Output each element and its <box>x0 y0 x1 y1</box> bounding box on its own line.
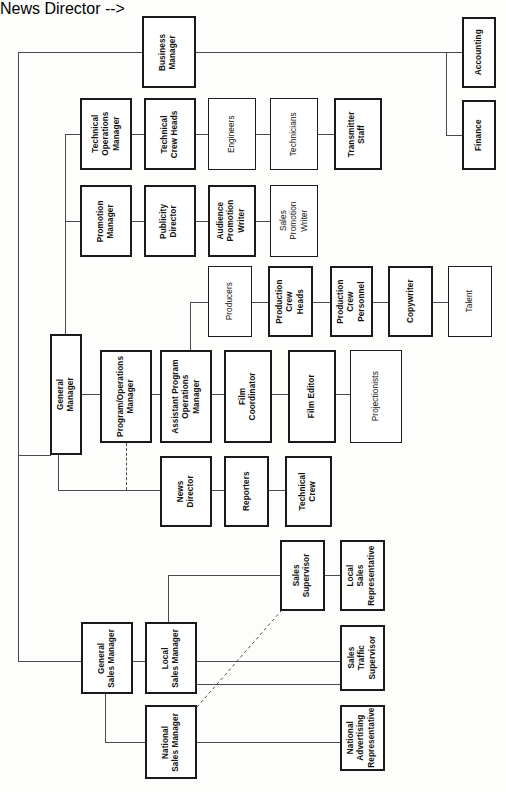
connector-technicians-to-transmitter <box>318 134 334 135</box>
connector-gsm-national-riser <box>105 694 106 742</box>
node-national-sales-manager[interactable]: National Sales Manager <box>145 705 197 779</box>
node-label: Sales Supervisor <box>292 554 313 598</box>
node-label: Transmitter Staff <box>348 111 369 157</box>
node-engineers[interactable]: Engineers <box>208 98 256 170</box>
connector-film-coordinator-to-editor <box>272 394 288 395</box>
node-talent[interactable]: Talent <box>448 266 492 337</box>
node-sales-traffic-supervisor[interactable]: Sales Traffic Supervisor <box>340 625 385 691</box>
node-copywriter[interactable]: Copywriter <box>388 266 433 337</box>
connector-film-editor-to-projectionists <box>336 394 350 395</box>
connector-supervisor-to-local-rep <box>325 575 340 576</box>
node-technical-operations-manager[interactable]: Technical Operations Manager <box>80 98 132 170</box>
node-label: Talent <box>465 290 475 312</box>
connector-assistant-to-film-coordinator <box>212 394 224 395</box>
connector-gm-left-stub <box>18 455 51 456</box>
node-audience-promotion-writer[interactable]: Audience Promotion Writer <box>208 185 256 257</box>
connector-gm-news-riser <box>58 455 59 490</box>
connector-nsm-to-traffic-stub <box>197 684 312 685</box>
connector-gm-to-news-director <box>58 490 160 491</box>
node-program-operations-manager[interactable]: Program/Operations Manager <box>100 350 152 443</box>
connector-publicity-to-audience <box>196 221 208 222</box>
node-label: Local Sales Representative <box>347 545 378 605</box>
connector-news-to-reporters <box>212 490 224 491</box>
node-technical-crew-heads[interactable]: Technical Crew Heads <box>144 98 196 170</box>
connector-to-promotion-manager <box>65 221 80 222</box>
node-label: General Sales Manager <box>97 629 118 688</box>
node-label: Accounting <box>474 29 484 75</box>
node-label: Sales Promotion Writer <box>278 202 309 240</box>
connector-program-to-assistant <box>152 394 160 395</box>
connector-engineers-to-technicians <box>256 134 270 135</box>
connector-nsm-traffic-join <box>312 684 340 685</box>
connector-tom-to-tch <box>132 134 144 135</box>
node-national-advertising-representative[interactable]: National Advertising Representative <box>340 705 385 771</box>
connector-gm-business-manager <box>18 52 142 53</box>
node-label: Producers <box>225 282 235 320</box>
connector-gm-to-program-operations <box>82 394 100 395</box>
node-film-coordinator[interactable]: Film Coordinator <box>224 350 272 443</box>
node-reporters[interactable]: Reporters <box>224 456 269 527</box>
connector-to-finance <box>446 135 462 136</box>
node-label: Finance <box>474 119 484 151</box>
connector-to-technical-operations-manager <box>65 134 80 135</box>
connector-lsm-to-sales-traffic <box>197 661 340 662</box>
node-label: Technical Crew Heads <box>160 110 181 158</box>
node-promotion-manager[interactable]: Promotion Manager <box>80 185 132 257</box>
connector-crew-heads-to-personnel <box>313 302 330 303</box>
node-label: Technicians <box>289 112 299 156</box>
node-label: Business Manager <box>159 33 180 70</box>
connector-producers-to-crew-heads <box>252 302 268 303</box>
node-label: Production Crew Personnel <box>336 279 367 323</box>
connector-tch-to-engineers <box>196 134 208 135</box>
node-technicians[interactable]: Technicians <box>270 98 318 170</box>
connector-personnel-to-copywriter <box>373 302 388 303</box>
node-publicity-director[interactable]: Publicity Director <box>144 185 196 257</box>
node-transmitter-staff[interactable]: Transmitter Staff <box>334 98 382 170</box>
node-label: Technical Operations Manager <box>90 112 121 156</box>
connector-accounting-finance-spine <box>446 52 447 135</box>
node-label: Technical Crew <box>298 472 319 510</box>
connector-lsm-to-sales-supervisor <box>168 575 280 576</box>
node-label: National Sales Manager <box>161 713 182 772</box>
node-local-sales-representative[interactable]: Local Sales Representative <box>340 540 385 611</box>
node-label: Publicity Director <box>160 203 181 238</box>
node-production-crew-heads[interactable]: Production Crew Heads <box>268 266 313 337</box>
connector-gsm-to-national-sales-manager <box>105 742 145 743</box>
node-news-director[interactable]: News Director <box>160 456 212 527</box>
node-producers[interactable]: Producers <box>208 266 252 337</box>
node-general-sales-manager[interactable]: General Sales Manager <box>81 622 133 694</box>
node-projectionists[interactable]: Projectionists <box>350 350 402 443</box>
node-label: General Manager <box>56 377 77 411</box>
node-general-manager[interactable]: General Manager <box>50 334 82 455</box>
node-label: Film Editor <box>307 375 317 419</box>
node-assistant-program-operations-manager[interactable]: Assistant Program Operations Manager <box>160 350 212 443</box>
node-label: Assistant Program Operations Manager <box>170 359 201 434</box>
node-label: National Advertising Representative <box>347 708 378 768</box>
node-local-sales-manager[interactable]: Local Sales Manager <box>145 622 197 694</box>
node-film-editor[interactable]: Film Editor <box>288 350 336 443</box>
node-finance[interactable]: Finance <box>462 100 496 170</box>
connector-assistant-producers-riser <box>190 302 191 350</box>
node-label: Production Crew Heads <box>275 279 306 323</box>
connector-business-manager-right <box>196 52 446 53</box>
node-label: Copywriter <box>405 280 415 324</box>
connector-gm-to-general-sales-manager <box>18 661 81 662</box>
node-technical-crew[interactable]: Technical Crew <box>285 456 332 527</box>
node-label: Promotion Manager <box>96 200 117 242</box>
connector-program-to-news-dashed <box>126 443 127 490</box>
connector-gm-tech-promo-spine <box>65 134 66 221</box>
connector-copywriter-to-talent <box>433 302 448 303</box>
connector-to-producers <box>190 302 208 303</box>
node-label: Audience Promotion Writer <box>216 200 247 242</box>
node-label: Reporters <box>241 472 251 512</box>
node-label: Local Sales Manager <box>161 629 182 688</box>
node-sales-promotion-writer[interactable]: Sales Promotion Writer <box>270 185 318 257</box>
connector-gsm-to-local-sales-manager <box>133 661 145 662</box>
node-business-manager[interactable]: Business Manager <box>142 16 196 88</box>
node-accounting[interactable]: Accounting <box>462 17 496 88</box>
connector-nsm-to-national-ad-rep <box>197 742 340 743</box>
node-production-crew-personnel[interactable]: Production Crew Personnel <box>330 266 373 337</box>
node-label: Program/Operations Manager <box>116 356 137 437</box>
node-sales-supervisor[interactable]: Sales Supervisor <box>280 540 325 611</box>
node-label: Projectionists <box>371 371 381 421</box>
